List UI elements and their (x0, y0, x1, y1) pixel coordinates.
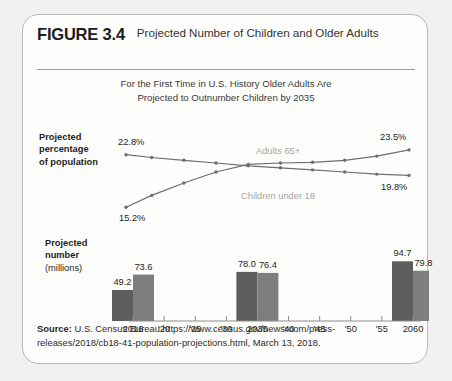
bar-value-label: 94.7 (393, 248, 411, 258)
bar-2016-children-under-18 (133, 275, 154, 321)
bar-2035-adults-65-plus (236, 272, 257, 321)
bar-2035-children-under-18 (257, 273, 278, 321)
bar-value-label: 76.4 (259, 260, 277, 270)
bar-2060-adults-65-plus (392, 261, 413, 321)
bar-2060-children-under-18 (413, 271, 429, 321)
bar-value-label: 78.0 (238, 259, 256, 269)
source-note: Source: U.S. Census Bureau https://www.c… (37, 322, 409, 350)
bar-value-label: 73.6 (134, 262, 152, 272)
source-label: Source: (37, 323, 72, 334)
bar-chart (23, 15, 429, 365)
figure-card: FIGURE 3.4 Projected Number of Children … (22, 14, 428, 364)
bar-value-label: 79.8 (414, 258, 432, 268)
source-text: U.S. Census Bureau https://www.census.go… (37, 323, 335, 348)
bar-value-label: 49.2 (113, 277, 131, 287)
bar-2016-adults-65-plus (112, 290, 133, 321)
